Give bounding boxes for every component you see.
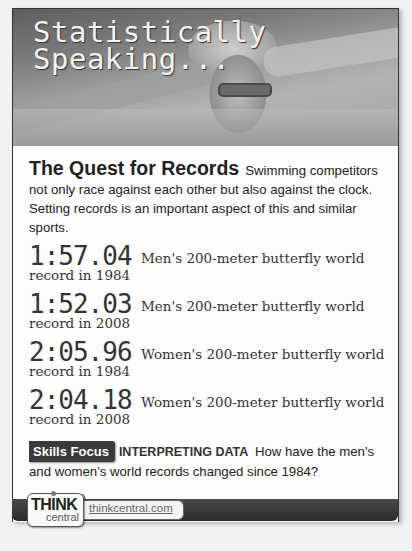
record-time: 2:04.18: [29, 387, 132, 413]
photo-shape: [13, 109, 398, 146]
section-heading: The Quest for Records: [29, 157, 239, 179]
photo-shape: [218, 83, 272, 97]
record-item: 1:52.03 Men's 200-meter butterfly world …: [29, 291, 385, 339]
skills-focus: Skills FocusINTERPRETING DATA How have t…: [29, 441, 385, 481]
record-description: Women's 200-meter butterfly world: [141, 346, 384, 362]
skills-focus-badge: Skills Focus: [29, 441, 115, 462]
record-subtitle: record in 1984: [29, 363, 130, 379]
record-item: 1:57.04 Men's 200-meter butterfly world …: [29, 243, 385, 291]
record-time: 1:57.04: [29, 243, 132, 269]
skills-label: INTERPRETING DATA: [119, 445, 248, 459]
intro-paragraph: The Quest for RecordsSwimming competitor…: [29, 159, 385, 237]
title-line-2: Speaking...: [33, 42, 231, 76]
thinkcentral-link-pill[interactable]: thinkcentral.com: [83, 500, 184, 520]
feature-title: Statistically Speaking...: [33, 19, 266, 73]
statistics-feature-box: Statistically Speaking... The Quest for …: [12, 8, 399, 522]
record-subtitle: record in 2008: [29, 315, 130, 331]
logo-central-text: central: [46, 511, 79, 523]
photo-shape: [262, 25, 398, 78]
record-time: 1:52.03: [29, 291, 132, 317]
record-item: 2:04.18 Women's 200-meter butterfly worl…: [29, 387, 385, 435]
record-description: Women's 200-meter butterfly world: [141, 394, 384, 410]
thinkcentral-link[interactable]: thinkcentral.com: [89, 502, 173, 514]
record-item: 2:05.96 Women's 200-meter butterfly worl…: [29, 339, 385, 387]
think-central-logo: THINK central: [27, 493, 84, 527]
swimmer-photo: Statistically Speaking...: [13, 9, 398, 146]
feature-content: The Quest for RecordsSwimming competitor…: [29, 159, 385, 502]
record-subtitle: record in 2008: [29, 411, 130, 427]
record-subtitle: record in 1984: [29, 267, 130, 283]
record-time: 2:05.96: [29, 339, 132, 365]
record-description: Men's 200-meter butterfly world: [141, 298, 364, 314]
record-description: Men's 200-meter butterfly world: [141, 250, 364, 266]
